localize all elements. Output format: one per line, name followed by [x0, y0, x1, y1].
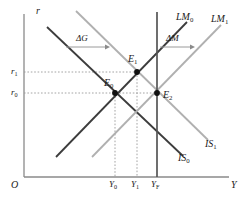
point-e2 [154, 90, 160, 96]
diagram-canvas [0, 0, 245, 202]
point-e1 [134, 69, 140, 75]
tick-label-Y1: Y1 [131, 180, 139, 189]
is-lm-diagram: r Y O r1 r0 Y0 Y1 YF LM0 LM1 IS0 IS1 E0 … [0, 0, 245, 202]
annotation-delta-m: ΔM [166, 34, 179, 43]
delta-m-arrow-head [190, 45, 195, 50]
curve-label-lm1: LM1 [211, 14, 228, 24]
tick-label-YF: YF [151, 180, 159, 189]
tick-label-r1: r1 [11, 67, 18, 76]
curve-label-is0: IS0 [178, 153, 190, 163]
equilibrium-label-e0: E0 [104, 78, 114, 88]
x-axis-label: Y [231, 180, 237, 190]
equilibrium-label-e1: E1 [128, 54, 138, 64]
axes [24, 14, 229, 177]
equilibrium-label-e2: E2 [163, 90, 173, 100]
annotation-delta-g: ΔG [76, 34, 88, 43]
curve-is1 [76, 11, 208, 140]
point-e0 [112, 90, 118, 96]
curve-label-lm0: LM0 [176, 12, 193, 22]
delta-g-arrow [66, 45, 110, 50]
y-axis-label: r [36, 6, 40, 16]
tick-label-r0: r0 [11, 88, 18, 97]
origin-label: O [11, 180, 18, 190]
delta-g-arrow-head [105, 45, 110, 50]
curve-label-is1: IS1 [205, 139, 217, 149]
tick-label-Y0: Y0 [109, 180, 117, 189]
guide-lines [24, 72, 157, 177]
